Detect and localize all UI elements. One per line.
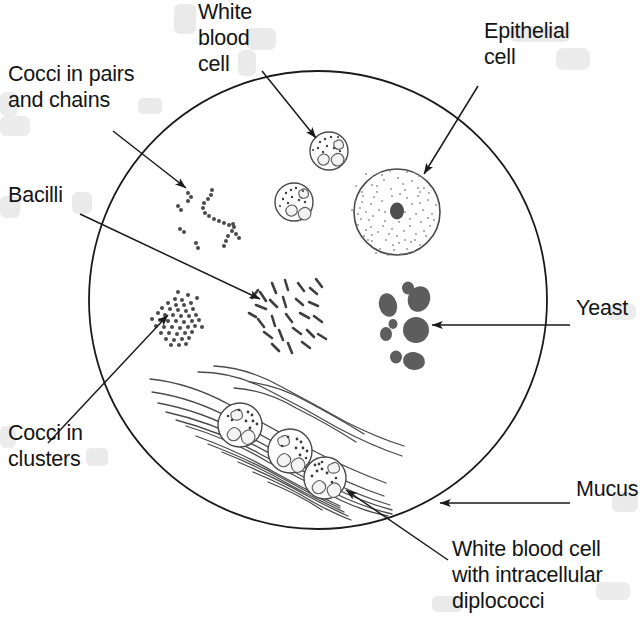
label-cocci-in-pairs-and-chains: Cocci in pairs and chains (8, 62, 140, 112)
label-cocci-in-clusters: Cocci in clusters (8, 421, 89, 471)
white-blood-cell-intracellular-2 (268, 429, 312, 473)
label-yeast: Yeast (576, 296, 628, 320)
white-blood-cell-intracellular-3 (304, 457, 346, 499)
epithelial-cell-nucleus (390, 203, 404, 220)
cocci-pairs-and-chains (176, 188, 241, 250)
labels-layer: White blood cell Cocci in pairs and chai… (8, 0, 638, 613)
bacilli-rods (249, 279, 326, 353)
label-mucus: Mucus (576, 477, 638, 501)
label-white-blood-cell-with-intracellular-diplococci: White blood cell with intracellular dipl… (451, 537, 608, 613)
label-bacilli: Bacilli (8, 183, 63, 207)
white-blood-cell-free-2 (275, 183, 313, 221)
yeast-cells (376, 282, 434, 372)
leader-epithelial-cell (424, 86, 478, 174)
diagram-canvas: White blood cell Cocci in pairs and chai… (0, 0, 640, 639)
white-blood-cell-intracellular-1 (218, 403, 262, 447)
cocci-in-clusters (150, 290, 204, 347)
epithelial-cell (351, 169, 440, 256)
smear-diagram-figure: White blood cell Cocci in pairs and chai… (0, 0, 640, 639)
leader-white-blood-cell (262, 71, 316, 138)
